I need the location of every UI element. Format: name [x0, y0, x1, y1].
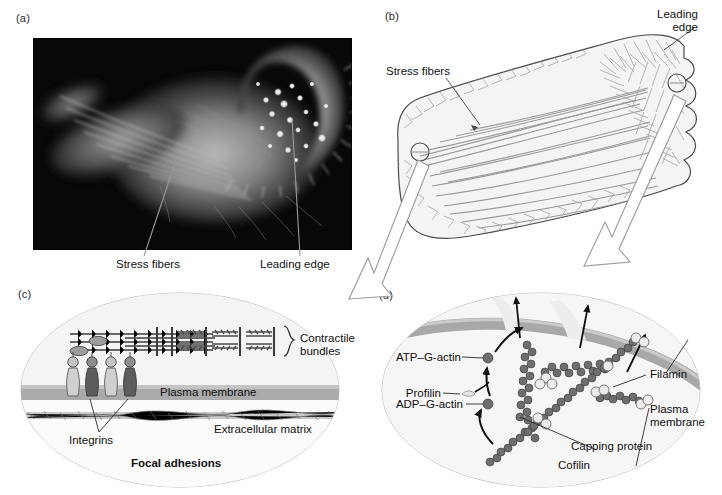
- adp-g-actin-monomer: [483, 399, 493, 409]
- panel-d-label-atp-g-actin: ATP–G-actin: [381, 351, 461, 364]
- panel-d-leading-edge: [0, 0, 722, 495]
- panel-d-label-adp-g-actin: ADP–G-actin: [381, 398, 463, 411]
- panel-d-label-capping-protein: Capping protein: [571, 440, 652, 453]
- atp-g-actin-monomer: [483, 353, 493, 363]
- figure-cell-motility: (a) (b) (c) (d): [0, 0, 722, 495]
- panel-d-label-cofilin: Cofilin: [558, 459, 590, 472]
- panel-d-label-plasma-membrane: Plasma membrane: [650, 403, 705, 429]
- panel-d-label-filamin: Filamin: [650, 368, 687, 381]
